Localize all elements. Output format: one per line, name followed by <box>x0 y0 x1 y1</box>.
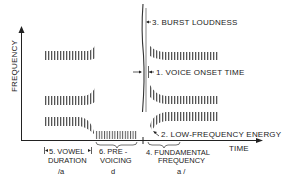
first-vowel-formants <box>44 44 137 139</box>
svg-text:VOICING: VOICING <box>100 156 132 165</box>
svg-text:6. PRE -: 6. PRE - <box>99 147 128 156</box>
formant-f1-left <box>44 117 94 134</box>
svg-text:DURATION: DURATION <box>48 156 87 165</box>
formant-f3-left <box>44 44 96 60</box>
formant-f2-left <box>44 86 96 105</box>
spectrogram-diagram: FREQUENCY 3. BURST LOUDNESS 1. VOICE ONS <box>0 0 298 185</box>
annotation-voice-onset-time: 1. VOICE ONSET TIME <box>133 66 244 78</box>
arrow-left-icon <box>45 149 48 152</box>
arrow-left-icon <box>146 21 149 24</box>
y-axis <box>19 26 25 140</box>
segment-consonant: d <box>111 167 115 176</box>
y-axis-label: FREQUENCY <box>10 40 19 92</box>
x-axis-label: TIME <box>229 144 249 153</box>
svg-text:5. VOWEL: 5. VOWEL <box>49 147 84 156</box>
arrow-left-icon <box>149 71 152 74</box>
second-vowel-formants <box>150 46 218 130</box>
annotation-low-frequency-energy: 2. LOW-FREQUENCY ENERGY <box>153 130 282 139</box>
label-vowel-duration: 5. VOWEL DURATION <box>45 147 92 165</box>
svg-text:1. VOICE ONSET TIME: 1. VOICE ONSET TIME <box>156 68 244 77</box>
arrow-right-icon <box>88 149 91 152</box>
prevoicing-voice-bar <box>95 131 137 139</box>
formant-f2-right <box>150 85 218 104</box>
svg-text:2. LOW-FREQUENCY ENERGY: 2. LOW-FREQUENCY ENERGY <box>161 130 282 139</box>
svg-text:3. BURST LOUDNESS: 3. BURST LOUDNESS <box>152 18 238 27</box>
label-prevoicing: 6. PRE - VOICING <box>96 142 137 165</box>
arrow-right-icon <box>139 71 142 74</box>
y-axis-arrow-icon <box>19 26 25 33</box>
svg-text:FREQUENCY: FREQUENCY <box>158 156 205 165</box>
segment-first-vowel: /a <box>58 167 65 176</box>
burst-line <box>142 4 144 112</box>
label-fundamental-frequency: 4. FUNDAMENTAL FREQUENCY <box>146 142 210 165</box>
segment-second-vowel: a / <box>177 167 186 176</box>
annotation-burst-loudness: 3. BURST LOUDNESS <box>146 18 238 27</box>
formant-f1-right <box>150 112 218 130</box>
formant-f3-right <box>150 46 218 60</box>
